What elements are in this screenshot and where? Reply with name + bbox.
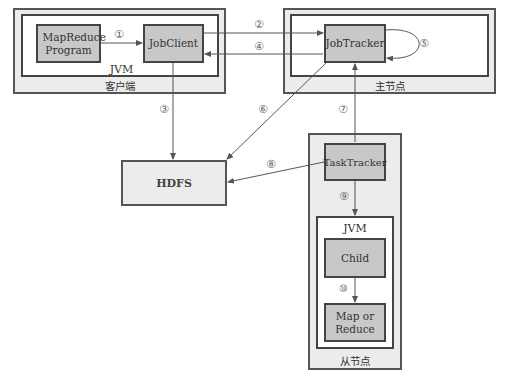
step-8-label: ⑧ bbox=[266, 158, 276, 171]
step-7-label: ⑦ bbox=[338, 103, 348, 116]
arrow-8 bbox=[228, 162, 324, 182]
arrows-layer bbox=[0, 0, 506, 381]
step-9-label: ⑨ bbox=[339, 190, 349, 203]
step-10-label: ⑩ bbox=[339, 283, 348, 294]
step-6-label: ⑥ bbox=[258, 103, 268, 116]
arrow-6 bbox=[227, 63, 326, 159]
step-5-label: ⑤ bbox=[419, 37, 429, 50]
step-4-label: ④ bbox=[254, 40, 264, 53]
step-3-label: ③ bbox=[159, 103, 169, 116]
arrow-5-loop bbox=[386, 30, 419, 59]
step-1-label: ① bbox=[114, 28, 124, 41]
step-2-label: ② bbox=[254, 18, 264, 31]
